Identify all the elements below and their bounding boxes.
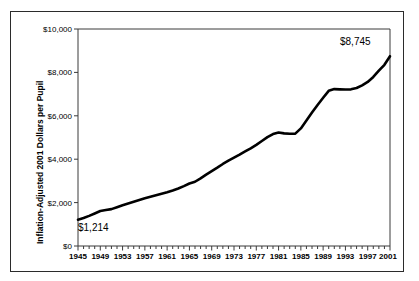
end-value-label: $8,745 [340, 36, 371, 47]
chart-figure: Inflation-Adjusted 2001 Dollars per Pupi… [0, 0, 419, 281]
plot-frame [78, 29, 390, 246]
y-axis-ticks [74, 29, 78, 246]
x-axis-ticks [78, 246, 390, 251]
start-value-label: $1,214 [78, 222, 109, 233]
data-line-series [78, 56, 390, 219]
